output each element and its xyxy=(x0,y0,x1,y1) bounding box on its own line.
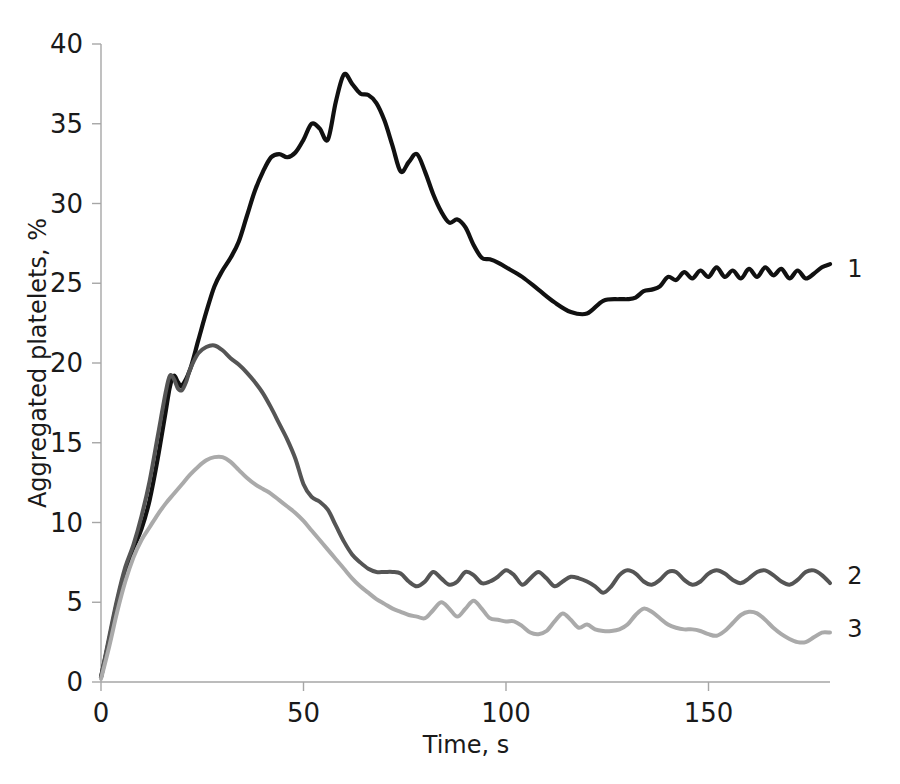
chart-container: 0510152025303540 050100150 Aggregated pl… xyxy=(0,0,900,784)
x-axis-title: Time, s xyxy=(422,731,510,759)
chart-background xyxy=(0,0,900,784)
y-tick-label: 40 xyxy=(50,29,83,59)
x-tick-label: 0 xyxy=(93,698,110,728)
y-tick-label: 10 xyxy=(50,508,83,538)
y-tick-label: 35 xyxy=(50,109,83,139)
y-tick-label: 20 xyxy=(50,348,83,378)
x-tick-label: 150 xyxy=(684,698,734,728)
series-label-3: 3 xyxy=(847,615,862,643)
series-label-2: 2 xyxy=(847,562,862,590)
x-tick-label: 100 xyxy=(481,698,531,728)
y-tick-label: 0 xyxy=(66,667,83,697)
x-tick-label: 50 xyxy=(287,698,320,728)
y-axis-title: Aggregated platelets, % xyxy=(24,218,52,508)
y-tick-label: 5 xyxy=(66,587,83,617)
series-label-1: 1 xyxy=(847,255,862,283)
line-chart: 0510152025303540 050100150 Aggregated pl… xyxy=(0,0,900,784)
y-tick-label: 15 xyxy=(50,428,83,458)
y-tick-label: 25 xyxy=(50,268,83,298)
y-tick-label: 30 xyxy=(50,189,83,219)
